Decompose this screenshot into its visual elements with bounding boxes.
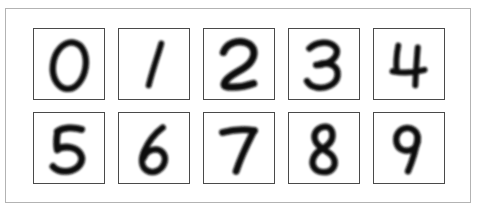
digit-cell-4 [373, 28, 445, 100]
digit-cell-7 [203, 112, 275, 184]
digit-cell-8 [288, 112, 360, 184]
digit-four-glyph [374, 29, 444, 99]
digit-cell-1 [118, 28, 190, 100]
digit-one-glyph [119, 29, 189, 99]
digit-eight-glyph [289, 113, 359, 183]
digit-cell-6 [118, 112, 190, 184]
digit-cell-5 [33, 112, 105, 184]
figure-panel [5, 8, 471, 203]
digit-cell-3 [288, 28, 360, 100]
digit-six-glyph [119, 113, 189, 183]
digit-nine-glyph [374, 113, 444, 183]
digit-cell-9 [373, 112, 445, 184]
digit-seven-glyph [204, 113, 274, 183]
digit-five-glyph [34, 113, 104, 183]
digit-cell-0 [33, 28, 105, 100]
digit-grid [33, 28, 445, 186]
digit-zero-glyph [34, 29, 104, 99]
digit-two-glyph [204, 29, 274, 99]
digit-cell-2 [203, 28, 275, 100]
digit-three-glyph [289, 29, 359, 99]
